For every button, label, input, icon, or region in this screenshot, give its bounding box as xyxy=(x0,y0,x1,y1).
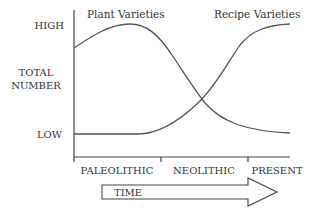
plant-varieties-label: Plant Varieties xyxy=(87,8,165,20)
y-axis-title-line2: NUMBER xyxy=(11,80,61,91)
line-chart: HIGH TOTAL NUMBER LOW PALEOLITHIC NEOLIT… xyxy=(0,0,317,215)
recipe-varieties-label: Recipe Varieties xyxy=(214,8,300,20)
x-label-neolithic: NEOLITHIC xyxy=(173,165,235,176)
y-label-low: LOW xyxy=(37,129,63,140)
recipe-varieties-curve xyxy=(74,24,290,134)
y-axis-title-line1: TOTAL xyxy=(19,67,54,78)
time-label: TIME xyxy=(114,187,142,198)
x-label-present: PRESENT xyxy=(251,165,302,176)
y-label-high: HIGH xyxy=(35,20,65,31)
x-label-paleolithic: PALEOLITHIC xyxy=(81,165,154,176)
